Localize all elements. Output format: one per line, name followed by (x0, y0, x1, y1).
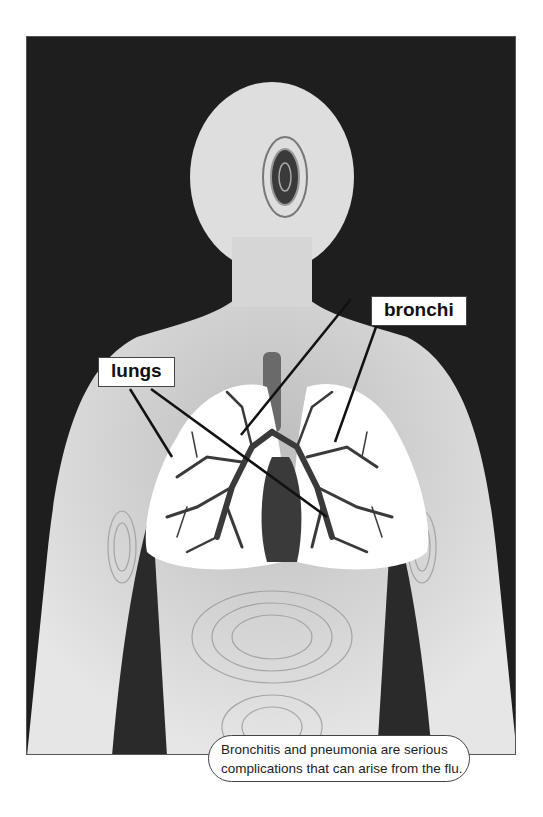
caption-bubble: Bronchitis and pneumonia are serious com… (208, 735, 470, 782)
body-illustration (26, 36, 516, 755)
torso-figure (27, 37, 516, 755)
bronchi-label: bronchi (371, 296, 467, 326)
caption-line-2: complications that can arise from the fl… (221, 759, 469, 778)
lungs-label: lungs (98, 357, 175, 387)
caption-line-1: Bronchitis and pneumonia are serious (221, 740, 469, 759)
